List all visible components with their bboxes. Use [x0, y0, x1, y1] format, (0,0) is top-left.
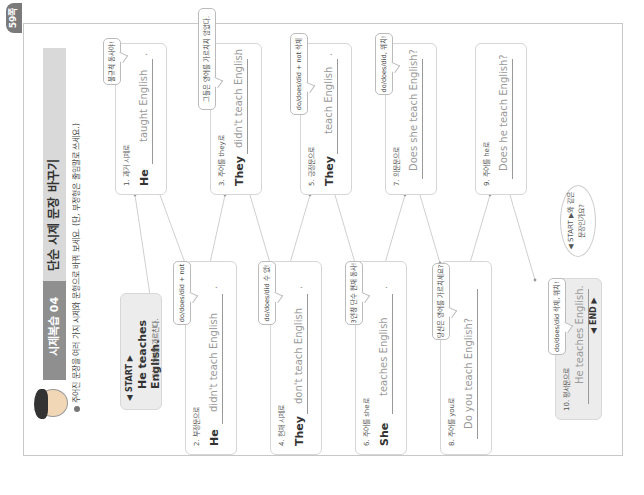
- step-10-answer-field[interactable]: He teaches English.: [574, 289, 589, 404]
- step-6-hint-bubble: 3인칭 단수 현재 동사!: [345, 261, 363, 325]
- step-4-answer-field[interactable]: don't teach English: [293, 294, 308, 414]
- step-9-answer: Does he teach English?: [498, 54, 509, 171]
- step-6-answer-field[interactable]: teaches English: [378, 294, 393, 414]
- step-2-label: 2. 부정문으로: [191, 407, 201, 446]
- step-7-hint-bubble: do/does/did, 위치!: [375, 33, 393, 95]
- step-1-hint-bubble: 불규칙 동사야!: [103, 38, 121, 85]
- step-3-answer-field[interactable]: didn't teach English: [233, 59, 248, 154]
- step-5-answer-field[interactable]: teach English: [323, 59, 338, 154]
- step-10-label: 10. 평서문으로: [561, 368, 571, 411]
- step-3-label: 3. 주어를 they로: [216, 135, 226, 186]
- step-3-answer: didn't teach English: [233, 49, 244, 148]
- step-7-answer: Does she teach English?: [408, 49, 419, 171]
- step-4-box: 4. 현재 시제로 They don't teach English .: [270, 261, 322, 455]
- start-label: ◀ START ▶: [125, 355, 134, 401]
- step-1-box: 1. 과거 시제로 He taught English .: [115, 43, 167, 195]
- check-bubble-text: ◀ START ▶와 같은 문장인가요?: [561, 186, 593, 256]
- step-3-period: .: [233, 53, 244, 56]
- step-9-answer-field[interactable]: Does he teach English?: [498, 59, 513, 179]
- start-box: ◀ START ▶ He teaches English. 그는 영어를 가르친…: [120, 293, 162, 410]
- step-5-subject: They: [323, 156, 336, 186]
- step-6-subject: She: [378, 423, 391, 446]
- step-10-answer: He teaches English.: [574, 285, 585, 384]
- step-2-hint-bubble: do/does/did + not: [173, 261, 191, 325]
- step-8-label: 8. 주어를 you로: [446, 398, 456, 446]
- step-9-label: 9. 주어를 he로: [481, 142, 491, 186]
- step-6-period: .: [378, 286, 389, 289]
- step-3-subject: They: [233, 156, 246, 186]
- step-6-label: 6. 주어를 she로: [361, 398, 371, 446]
- step-8-hint-bubble: 당신은 영어를 가르치세요?: [432, 263, 450, 340]
- step-2-answer: didn't teach English: [208, 313, 219, 412]
- step-10-hint-bubble: do/does/did 삭제, 위치!: [548, 278, 566, 355]
- step-4-label: 4. 현재 시제로: [276, 405, 286, 446]
- step-4-subject: They: [293, 416, 306, 446]
- end-label: ◀ END ▶: [589, 297, 598, 334]
- step-3-box: 3. 주어를 they로 They didn't teach English .: [210, 43, 262, 195]
- step-4-hint-bubble: do/does/did 수 있!: [258, 261, 276, 325]
- step-7-answer-field[interactable]: Does she teach English?: [408, 59, 423, 179]
- step-5-label: 5. 긍정문으로: [306, 147, 316, 186]
- step-8-answer-field[interactable]: Do you teach English?: [463, 289, 478, 439]
- start-translation: 그는 영어를 가르친다.: [150, 318, 160, 379]
- step-2-subject: He: [208, 429, 221, 446]
- step-3-hint-bubble: 그들은 영어를 가르치지 않았다.: [198, 8, 216, 110]
- step-5-answer: teach English: [323, 67, 334, 134]
- step-4-period: .: [293, 286, 304, 289]
- step-2-answer-field[interactable]: didn't teach English: [208, 294, 223, 424]
- step-5-period: .: [323, 53, 334, 56]
- step-9-box: 9. 주어를 he로 Does he teach English?: [475, 43, 527, 195]
- step-5-hint-bubble: do/does/did + not 삭제: [290, 33, 308, 115]
- step-8-answer: Do you teach English?: [463, 318, 474, 429]
- step-7-label: 7. 의문문으로: [391, 147, 401, 186]
- step-1-answer: taught English: [138, 70, 149, 142]
- step-2-box: 2. 부정문으로 He didn't teach English .: [185, 261, 237, 455]
- worksheet-page: 59쪽 시제복습 04 단순 시제 문장 바꾸기 주어진 문장을 여러 가지 시…: [0, 0, 644, 495]
- step-2-period: .: [208, 286, 219, 289]
- check-bubble: ◀ START ▶와 같은 문장인가요?: [560, 185, 596, 257]
- step-4-answer: don't teach English: [293, 308, 304, 404]
- step-1-subject: He: [138, 169, 151, 186]
- step-1-period: .: [138, 53, 149, 56]
- step-1-answer-field[interactable]: taught English: [138, 59, 153, 164]
- step-1-label: 1. 과거 시제로: [121, 145, 131, 186]
- step-6-answer: teaches English: [378, 317, 389, 396]
